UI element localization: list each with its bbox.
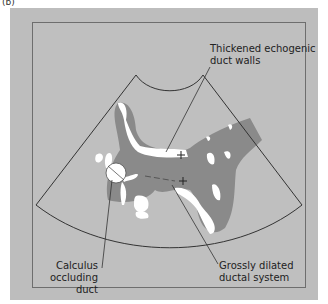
label-calculus: Calculus occluding duct xyxy=(38,260,98,296)
label-dilated-ductal-system: Grossly dilated ductal system xyxy=(219,260,294,284)
label-thickened-duct-walls: Thickened echogenic duct walls xyxy=(210,43,316,67)
